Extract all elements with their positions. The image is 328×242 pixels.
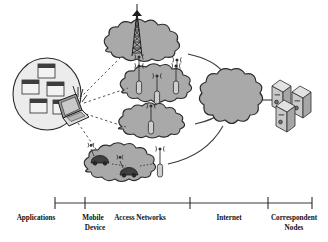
- app-window-icon: [30, 99, 47, 113]
- category-axis: Applications Mobile Device Access Networ…: [17, 197, 318, 232]
- base-station-antenna-icon: [156, 146, 164, 177]
- diagram-canvas: Applications Mobile Device Access Networ…: [0, 0, 328, 242]
- server-icon: [276, 100, 295, 132]
- axis-label-applications: Applications: [17, 214, 56, 222]
- cloud-shape: [199, 69, 262, 124]
- wireless-link-cellular: [80, 58, 120, 98]
- correspondent-node-cluster[interactable]: [272, 80, 311, 132]
- axis-label-correspondent-nodes-line2: Nodes: [285, 224, 304, 232]
- axis-label-mobile-device: Mobile: [82, 214, 104, 222]
- axis-label-internet: Internet: [216, 214, 242, 222]
- network-architecture-diagram: Applications Mobile Device Access Networ…: [0, 0, 328, 242]
- wireless-links: [78, 58, 128, 152]
- access-cloud-wlan[interactable]: [120, 63, 191, 104]
- access-cloud-vanet[interactable]: [84, 143, 164, 182]
- app-window-icon: [22, 80, 39, 94]
- axis-label-correspondent-nodes: Correspondent: [271, 214, 318, 222]
- internet-cloud[interactable]: [199, 69, 262, 124]
- access-cloud-wimax[interactable]: [118, 103, 184, 138]
- axis-label-mobile-device-line2: Device: [85, 224, 105, 232]
- wireless-link-wlan: [84, 88, 128, 103]
- app-window-icon: [47, 82, 64, 96]
- app-window-icon: [38, 64, 55, 78]
- axis-label-access-networks: Access Networks: [114, 214, 166, 222]
- wireless-link-vanet: [78, 123, 98, 152]
